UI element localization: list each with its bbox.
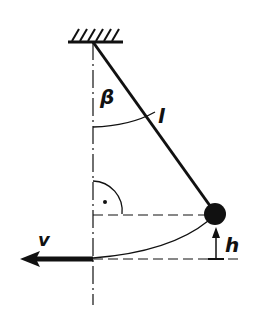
pendulum-diagram: β l h v (0, 0, 263, 314)
right-angle-marker (93, 181, 122, 214)
right-angle-dot (103, 200, 107, 204)
label-velocity: v (38, 229, 51, 250)
label-height: h (225, 233, 239, 257)
ceiling-support (68, 29, 123, 42)
swing-arc-path (93, 221, 208, 258)
label-beta: β (99, 85, 114, 109)
velocity-arrow (20, 251, 93, 267)
label-length: l (158, 104, 166, 128)
pendulum-bob (204, 203, 226, 225)
height-arrow (208, 227, 224, 259)
